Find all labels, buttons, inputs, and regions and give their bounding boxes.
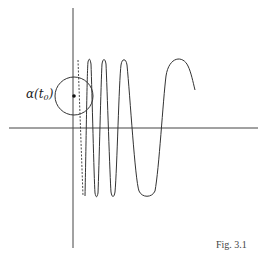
point-label: α(t0)	[26, 87, 53, 102]
figure-canvas	[0, 0, 265, 254]
point-alpha-t0	[72, 94, 76, 98]
point-label-symbol: α(t	[26, 87, 44, 101]
figure-caption: Fig. 3.1	[216, 239, 247, 250]
point-label-close: )	[49, 87, 54, 101]
